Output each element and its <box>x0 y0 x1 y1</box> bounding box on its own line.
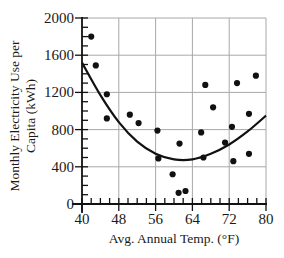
data-point <box>230 158 236 164</box>
data-point <box>246 111 252 117</box>
data-point <box>222 140 228 146</box>
y-tick-label: 1600 <box>44 47 74 63</box>
y-axis-title-line2: Capita (kWh) <box>23 79 38 153</box>
data-point <box>88 34 94 40</box>
y-tick-label: 400 <box>52 159 75 175</box>
data-point <box>210 104 216 110</box>
data-point <box>104 91 110 97</box>
data-point <box>176 190 182 196</box>
y-tick-labels: 0400800120016002000 <box>44 10 74 212</box>
y-tick-label: 800 <box>52 122 75 138</box>
data-point <box>182 188 188 194</box>
scatter-chart: 0400800120016002000 404856647280 Avg. An… <box>0 0 284 258</box>
data-point <box>253 73 259 79</box>
x-tick-label: 48 <box>111 211 126 227</box>
data-point <box>155 155 161 161</box>
data-point <box>127 112 133 118</box>
data-point <box>246 151 252 157</box>
data-point <box>170 171 176 177</box>
x-tick-labels: 404856647280 <box>75 211 274 227</box>
x-tick-label: 80 <box>259 211 274 227</box>
data-point <box>104 115 110 121</box>
y-axis-title-line1: Monthly Electricity Use per <box>7 40 22 192</box>
fit-curve <box>82 63 266 160</box>
axes <box>72 17 267 213</box>
x-tick-label: 56 <box>148 211 164 227</box>
data-point <box>198 129 204 135</box>
y-tick-label: 2000 <box>44 10 74 26</box>
x-axis-title: Avg. Annual Temp. (°F) <box>109 231 239 246</box>
data-point <box>229 124 235 130</box>
data-point <box>154 127 160 133</box>
x-tick-label: 64 <box>185 211 201 227</box>
x-tick-label: 40 <box>75 211 90 227</box>
minor-ticks <box>75 18 266 211</box>
data-point <box>200 154 206 160</box>
data-point <box>176 140 182 146</box>
y-tick-label: 1200 <box>44 84 74 100</box>
x-tick-label: 72 <box>222 211 237 227</box>
data-point <box>93 62 99 68</box>
y-tick-label: 0 <box>67 196 75 212</box>
data-point <box>202 82 208 88</box>
data-point <box>234 80 240 86</box>
data-point <box>135 120 141 126</box>
